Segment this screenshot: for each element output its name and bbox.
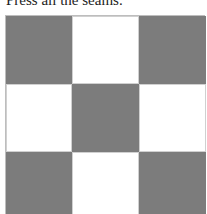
nine-patch-block — [5, 15, 205, 214]
block-cell-r1c1 — [6, 16, 72, 84]
block-cell-r3c2 — [72, 152, 139, 214]
instruction-caption: Press all the seams. — [6, 0, 123, 9]
block-cell-r1c2 — [72, 16, 139, 84]
block-cell-r3c1 — [6, 152, 72, 214]
block-cell-r2c2 — [72, 84, 139, 152]
block-cell-r2c3 — [139, 84, 206, 152]
block-cell-r2c1 — [6, 84, 72, 152]
block-cell-r3c3 — [139, 152, 206, 214]
block-cell-r1c3 — [139, 16, 206, 84]
